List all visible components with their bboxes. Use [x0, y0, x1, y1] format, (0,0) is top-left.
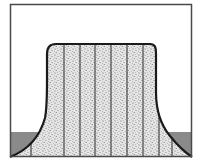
plateau-diagram: [0, 0, 207, 165]
plateau-body: [10, 44, 192, 157]
